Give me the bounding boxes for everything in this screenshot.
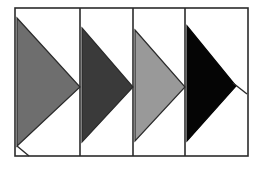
- four-panel-triangle-figure: Four panel right-pointing triangle figur…: [0, 0, 263, 170]
- figure-root: Four panel right-pointing triangle figur…: [0, 0, 263, 170]
